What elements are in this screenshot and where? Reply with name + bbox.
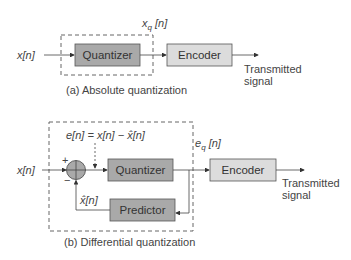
error-signal-label: e[n] = x[n] − x̂[n] [66, 129, 146, 141]
quantizer-label-a: Quantizer [83, 49, 133, 61]
input-label-b: x[n] [16, 164, 36, 176]
differential-quantization-diagram: x[n] + − e[n] = x[n] − x̂[n] Quantizer e… [16, 122, 340, 248]
transmitted-signal-label-b2: signal [282, 189, 311, 201]
quantization-diagram: x[n] Quantizer xq [n] Encoder Transmitte… [0, 0, 351, 260]
summation-junction-icon [67, 161, 86, 180]
caption-b: (b) Differential quantization [64, 236, 195, 248]
encoder-label-a: Encoder [178, 49, 221, 61]
predictor-label: Predictor [119, 204, 165, 216]
input-label-a: x[n] [16, 49, 36, 61]
prediction-label: x̂[n] [79, 194, 99, 206]
transmitted-signal-label-b: Transmitted [282, 177, 340, 189]
quantizer-label-b: Quantizer [116, 164, 166, 176]
transmitted-signal-label-a2: signal [244, 75, 273, 87]
encoder-label-b: Encoder [222, 164, 265, 176]
caption-a: (a) Absolute quantization [66, 84, 187, 96]
quantized-output-label: xq [n] [141, 17, 168, 32]
transmitted-signal-label-a: Transmitted [244, 63, 302, 75]
plus-sign: + [62, 154, 68, 166]
absolute-quantization-diagram: x[n] Quantizer xq [n] Encoder Transmitte… [16, 17, 302, 96]
quantized-error-label: eq [n] [195, 137, 222, 152]
